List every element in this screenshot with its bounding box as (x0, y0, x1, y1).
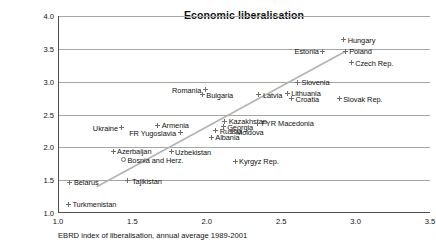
data-point[interactable] (349, 60, 354, 65)
gridline (59, 82, 430, 83)
gridline (59, 49, 430, 50)
marker-icon (289, 96, 294, 101)
data-point[interactable] (256, 92, 261, 97)
x-axis-tick-label: 3.0 (350, 217, 361, 226)
data-point[interactable] (200, 92, 205, 97)
data-point[interactable] (341, 37, 346, 42)
data-point-label: Moldova (236, 127, 264, 136)
data-point-label: Belarus (74, 178, 99, 187)
data-point-label: Estonia (295, 47, 319, 56)
marker-icon (155, 123, 160, 128)
data-point-label: Hungary (348, 35, 376, 44)
data-point-label: Latvia (263, 90, 282, 99)
y-axis-tick-label: 1.0 (2, 209, 54, 218)
x-axis-tick-label: 2.5 (276, 217, 287, 226)
data-point-label: Slovenia (302, 78, 330, 87)
marker-icon (295, 80, 300, 85)
y-axis-tick-label: 2.5 (2, 110, 54, 119)
data-point-label: Tajikistan (132, 176, 162, 185)
y-axis-tick-label: 2.0 (2, 143, 54, 152)
data-point[interactable] (178, 130, 183, 135)
marker-icon (178, 130, 183, 135)
data-point[interactable] (169, 149, 174, 154)
data-point-label: Slovak Rep. (343, 94, 382, 103)
data-point[interactable] (255, 121, 260, 126)
marker-icon (200, 92, 205, 97)
data-point-label: Czech Rep. (355, 58, 393, 67)
data-point[interactable] (111, 149, 116, 154)
data-point[interactable] (320, 49, 325, 54)
data-point[interactable] (209, 135, 214, 140)
data-point[interactable] (337, 96, 342, 101)
data-point[interactable] (66, 202, 71, 207)
data-point-label: Bulgaria (206, 90, 233, 99)
x-axis-tick-label: 1.5 (127, 217, 138, 226)
marker-icon (337, 96, 342, 101)
marker-icon (320, 49, 325, 54)
marker-icon (256, 92, 261, 97)
y-axis-tick-label: 4.0 (2, 12, 54, 21)
y-axis-tick-label: 1.5 (2, 176, 54, 185)
data-point-label: Turkmenistan (72, 200, 116, 209)
x-axis-tick-label: 1.0 (53, 217, 64, 226)
marker-icon (209, 135, 214, 140)
marker-icon (285, 91, 290, 96)
data-point[interactable] (233, 159, 238, 164)
data-point[interactable] (289, 96, 294, 101)
data-point[interactable] (285, 91, 290, 96)
marker-icon (66, 202, 71, 207)
data-point[interactable] (121, 157, 126, 162)
marker-icon (255, 121, 260, 126)
x-axis-tick-label: 3.5 (425, 217, 436, 226)
x-axis-tick-label: 2.0 (202, 217, 213, 226)
y-axis-tick-label: 3.5 (2, 44, 54, 53)
marker-icon (111, 149, 116, 154)
marker-icon (349, 60, 354, 65)
data-point[interactable] (155, 123, 160, 128)
marker-icon (343, 49, 348, 54)
gridline (59, 115, 430, 116)
economic-liberalisation-scatter-chart: Economic liberalisation 1.01.52.02.53.03… (0, 0, 436, 245)
marker-icon (125, 178, 130, 183)
gridline (59, 16, 430, 17)
marker-icon (121, 157, 126, 162)
data-point-label: Albania (215, 133, 239, 142)
y-axis-tick-labels: 1.01.52.02.53.03.54.0 (0, 0, 54, 245)
plot-area (58, 16, 430, 213)
data-point-label: Croatia (296, 94, 319, 103)
data-point-label: Poland (349, 47, 372, 56)
data-point-label: Kyrgyz Rep. (239, 157, 279, 166)
data-point-label: FYR Macedonia (261, 119, 313, 128)
marker-icon (119, 125, 124, 130)
x-axis-label: EBRD index of liberalisation, annual ave… (58, 231, 247, 240)
data-point[interactable] (119, 125, 124, 130)
data-point-label: Ukraine (93, 123, 118, 132)
data-point-label: Romania (172, 85, 201, 94)
y-axis-tick-label: 3.0 (2, 77, 54, 86)
marker-icon (233, 159, 238, 164)
data-point-label: Bosnia and Herz. (127, 155, 183, 164)
marker-icon (169, 149, 174, 154)
data-point[interactable] (67, 180, 72, 185)
marker-icon (67, 180, 72, 185)
data-point-label: FR Yugoslavia (129, 128, 176, 137)
data-point[interactable] (343, 49, 348, 54)
gridline (59, 180, 430, 181)
data-point[interactable] (295, 80, 300, 85)
data-point[interactable] (125, 178, 130, 183)
marker-icon (341, 37, 346, 42)
